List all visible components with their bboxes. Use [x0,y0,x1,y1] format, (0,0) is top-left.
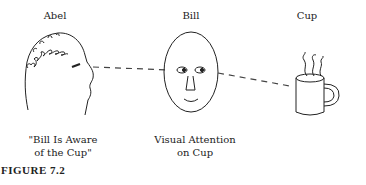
caption-bill-line1: Visual Attention [150,133,240,146]
bill-face-icon [164,32,218,112]
gaze-line-bill-to-cup [218,73,290,86]
figure-label: FIGURE 7.2 [1,164,65,176]
coffee-cup-icon [296,52,339,115]
caption-abel-line1: "Bill Is Aware [18,133,108,146]
caption-abel: "Bill Is Aware of the Cup" [18,133,108,159]
caption-bill: Visual Attention on Cup [150,133,240,159]
caption-abel-line2: of the Cup" [18,146,108,159]
abel-head-profile-icon [25,33,93,115]
caption-bill-line2: on Cup [150,146,240,159]
gaze-line-abel-to-bill [93,67,170,70]
